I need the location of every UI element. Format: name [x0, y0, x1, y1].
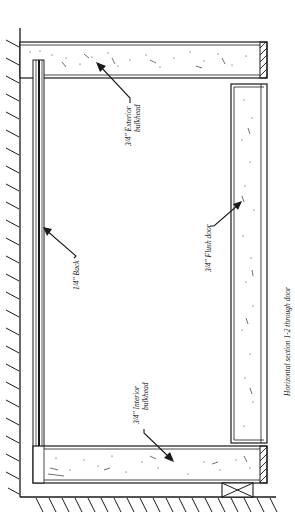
flush-door	[231, 84, 267, 443]
exterior-bulkhead	[20, 42, 267, 78]
back-leader	[46, 230, 76, 258]
label-flush-door: 3/4" Flush door	[204, 224, 213, 273]
label-exterior-bulkhead-1: 3/4" Exterior	[124, 106, 133, 147]
diagram-caption: Horizontal section 1-2 through door	[283, 287, 292, 397]
label-exterior-bulkhead-2: bulkhead	[133, 104, 142, 132]
label-back: 1/4" Back	[72, 260, 81, 290]
back-panel	[33, 60, 44, 483]
spacer-block	[222, 483, 253, 497]
floor	[20, 497, 277, 512]
section-diagram: 3/4" Exterior bulkhead 1/4" Back 3/4" Fl…	[0, 0, 295, 517]
label-interior-bulkhead-2: bulkhead	[141, 382, 150, 410]
interior-bulkhead	[33, 446, 267, 483]
wall	[6, 28, 20, 497]
label-interior-bulkhead-1: 3/4" Interior	[132, 386, 141, 425]
